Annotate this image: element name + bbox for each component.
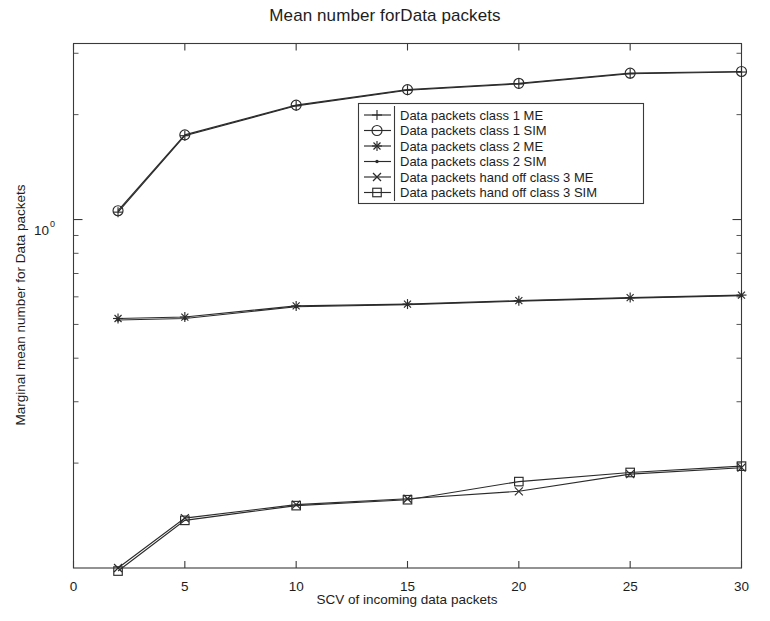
y-tick-mantissa: 10 — [34, 223, 49, 238]
line-chart-plot: 051015202530 10 0 SCV of incoming data p… — [0, 0, 770, 621]
legend-item-label: Data packets class 2 ME — [400, 139, 543, 154]
y-axis-title: Marginal mean number for Data packets — [13, 184, 28, 425]
legend-item-label: Data packets class 2 SIM — [400, 154, 547, 169]
y-tick-exponent: 0 — [50, 219, 55, 229]
x-tick-label: 25 — [623, 579, 638, 594]
x-axis-title: SCV of incoming data packets — [317, 592, 498, 607]
x-tick-label: 0 — [70, 579, 78, 594]
x-tick-label: 10 — [289, 579, 304, 594]
data-series — [114, 462, 746, 575]
x-tick-label: 5 — [181, 579, 189, 594]
legend-item-label: Data packets class 1 SIM — [400, 123, 547, 138]
legend-item-label: Data packets class 1 ME — [400, 108, 543, 123]
chart-legend: Data packets class 1 MEData packets clas… — [359, 104, 644, 204]
data-series — [114, 464, 745, 572]
x-tick-label: 30 — [734, 579, 749, 594]
legend-item-label: Data packets hand off class 3 ME — [400, 170, 594, 185]
y-axis-tick-label: 10 0 — [34, 219, 55, 238]
legend-item-label: Data packets hand off class 3 SIM — [400, 185, 597, 200]
data-series — [113, 290, 746, 323]
chart-figure: Mean number forData packets 051015202530… — [0, 0, 770, 621]
data-series — [116, 294, 743, 322]
x-tick-label: 20 — [511, 579, 526, 594]
